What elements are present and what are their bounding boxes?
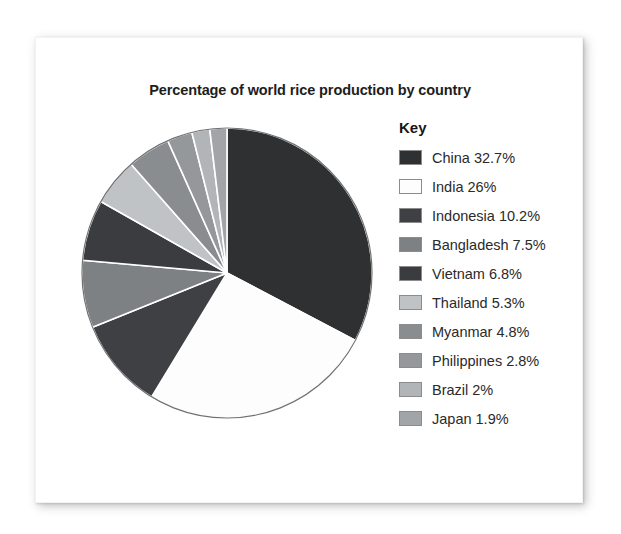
legend-swatch-icon — [399, 411, 422, 426]
pie-chart — [81, 127, 373, 419]
legend-item: China 32.7% — [399, 143, 579, 172]
legend-item-label: Bangladesh 7.5% — [432, 237, 546, 253]
legend-item-list: China 32.7%India 26%Indonesia 10.2%Bangl… — [399, 143, 579, 433]
legend-swatch-icon — [399, 353, 422, 368]
legend-item-label: China 32.7% — [432, 150, 515, 166]
legend-item: Bangladesh 7.5% — [399, 230, 579, 259]
legend-item-label: Indonesia 10.2% — [432, 208, 540, 224]
legend-swatch-icon — [399, 179, 422, 194]
pie-slice-group — [82, 128, 372, 418]
legend-item-label: Thailand 5.3% — [432, 295, 525, 311]
legend-swatch-icon — [399, 208, 422, 223]
legend-item-label: Myanmar 4.8% — [432, 324, 530, 340]
legend-item: Indonesia 10.2% — [399, 201, 579, 230]
legend-item-label: Philippines 2.8% — [432, 353, 539, 369]
legend-item-label: Vietnam 6.8% — [432, 266, 522, 282]
legend-item: Brazil 2% — [399, 375, 579, 404]
legend-item: Philippines 2.8% — [399, 346, 579, 375]
legend-swatch-icon — [399, 324, 422, 339]
legend-item: Vietnam 6.8% — [399, 259, 579, 288]
legend-swatch-icon — [399, 266, 422, 281]
legend-swatch-icon — [399, 295, 422, 310]
legend: Key China 32.7%India 26%Indonesia 10.2%B… — [399, 119, 579, 433]
legend-item-label: India 26% — [432, 179, 497, 195]
legend-item: India 26% — [399, 172, 579, 201]
legend-item-label: Japan 1.9% — [432, 411, 509, 427]
legend-swatch-icon — [399, 237, 422, 252]
chart-card: Percentage of world rice production by c… — [35, 37, 583, 503]
legend-swatch-icon — [399, 382, 422, 397]
legend-title: Key — [399, 119, 579, 136]
legend-item: Thailand 5.3% — [399, 288, 579, 317]
legend-item: Myanmar 4.8% — [399, 317, 579, 346]
pie-chart-svg — [81, 127, 373, 419]
legend-item: Japan 1.9% — [399, 404, 579, 433]
legend-swatch-icon — [399, 150, 422, 165]
page-title: Percentage of world rice production by c… — [36, 82, 584, 98]
legend-item-label: Brazil 2% — [432, 382, 493, 398]
page-background: Percentage of world rice production by c… — [0, 0, 621, 534]
